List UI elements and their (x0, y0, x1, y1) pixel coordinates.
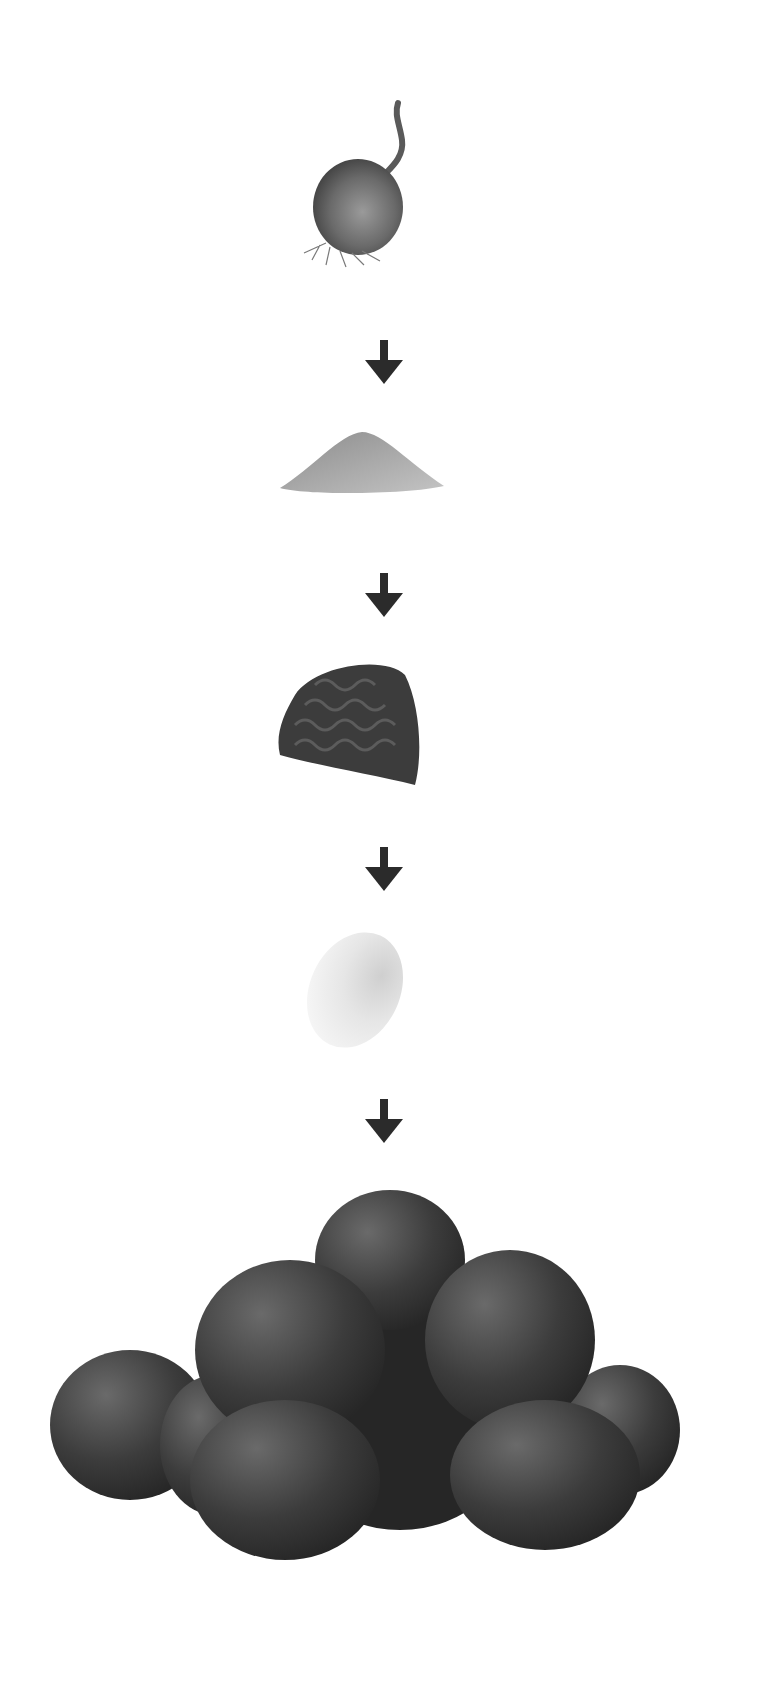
arrow-down-icon (365, 847, 403, 891)
recipe-flow-diagram: onion breadcrumbs (0, 0, 772, 1695)
breadcrumb-pile-image: breadcrumbs (270, 420, 450, 495)
arrow-down-icon (365, 573, 403, 617)
arrow-down-icon (365, 340, 403, 384)
arrow-down-icon (365, 1099, 403, 1143)
meatballs-image: meatballs (40, 1190, 740, 1560)
onion-image: onion (290, 95, 440, 275)
minced-meat-image: minced meat (275, 655, 425, 790)
egg-image: egg (300, 925, 410, 1055)
